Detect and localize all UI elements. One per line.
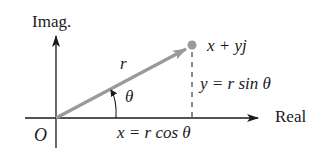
point-marker (188, 41, 197, 50)
real-axis-label: Real (275, 108, 306, 125)
complex-plane-diagram: Imag. Real O r θ x + yj y = r sin θ x = … (0, 0, 331, 154)
point-label: x + yj (207, 37, 247, 54)
imaginary-axis-label: Imag. (32, 13, 71, 30)
vertical-projection-label: y = r sin θ (200, 75, 271, 92)
vector-label-r: r (120, 55, 127, 72)
angle-label-theta: θ (125, 88, 133, 105)
origin-label: O (34, 126, 47, 144)
horizontal-projection-label: x = r cos θ (117, 124, 191, 141)
angle-arc (111, 90, 116, 118)
